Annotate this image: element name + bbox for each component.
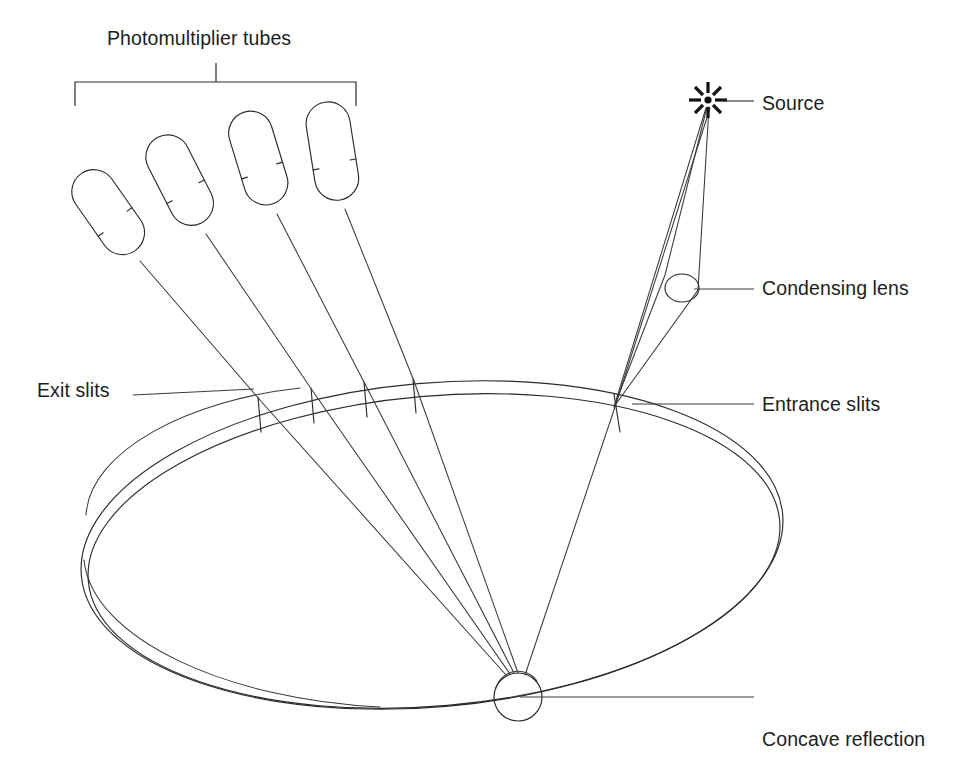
rowland-circle-band — [67, 353, 797, 737]
beam-edge-left — [614, 108, 706, 407]
label-source: Source — [762, 92, 824, 115]
rowland-circle-inner-edge — [75, 366, 793, 735]
pmt-3-notch-right — [277, 162, 283, 164]
rowland-circle-rim-highlight-lower — [84, 560, 380, 707]
photomultiplier-tube-4 — [303, 99, 362, 204]
ray-exit-slit-4-to-pmt-4 — [345, 209, 414, 381]
ray-exit-slit-1-to-pmt-1 — [140, 261, 259, 399]
pmt-2-notch-right — [199, 180, 204, 183]
label-entrance-slits: Entrance slits — [762, 393, 880, 416]
ray-entrance-to-grating — [525, 404, 616, 675]
condensing-lens — [665, 274, 699, 302]
pmt-1-notch-right — [127, 208, 132, 211]
leader-line-group — [133, 101, 754, 697]
photomultiplier-bracket — [75, 63, 356, 106]
source-starburst — [689, 82, 727, 118]
photomultiplier-tube-group — [63, 99, 362, 263]
source-ray-se — [713, 105, 721, 113]
pmt-2-body — [138, 127, 221, 233]
label-grating-line-1: Concave reflection — [762, 727, 925, 753]
source-core-dot — [704, 96, 711, 103]
photomultiplier-tube-1 — [63, 161, 153, 263]
polychromator-figure — [0, 0, 965, 768]
source-ray-nw — [695, 87, 703, 95]
rowland-circle-outer-edge — [67, 353, 797, 737]
pmt-3-body — [223, 106, 293, 211]
photomultiplier-tube-2 — [138, 127, 221, 233]
bracket-span — [75, 82, 356, 106]
ray-grating-to-exit-slit-2 — [312, 390, 510, 674]
source-ray-sw — [695, 105, 703, 113]
source-ray-ne — [713, 87, 721, 95]
light-ray-group — [140, 209, 616, 675]
label-exit-slits: Exit slits — [37, 379, 110, 402]
pmt-4-notch-left — [313, 169, 319, 170]
pmt-3-notch-left — [242, 177, 248, 179]
pmt-1-notch-left — [98, 233, 103, 236]
ray-exit-slit-2-to-pmt-2 — [206, 234, 312, 390]
leader-exit — [133, 389, 254, 395]
pmt-2-notch-left — [167, 201, 172, 204]
pmt-4-notch-right — [350, 159, 356, 160]
label-condensing-lens: Condensing lens — [762, 277, 909, 300]
source-beam-cone — [614, 107, 710, 407]
pmt-1-body — [63, 161, 153, 263]
label-diffraction-grating: Concave reflection diffraction grating — [762, 676, 925, 768]
ray-grating-to-exit-slit-1 — [259, 399, 506, 675]
photomultiplier-tube-3 — [223, 106, 293, 211]
diagram-canvas: Photomultiplier tubes Source Condensing … — [0, 0, 965, 768]
pmt-4-body — [303, 99, 362, 204]
label-photomultiplier-tubes: Photomultiplier tubes — [107, 27, 291, 50]
rowland-circle-rim-highlight — [86, 388, 300, 515]
ray-grating-to-exit-slit-4 — [414, 381, 518, 673]
exit-slit-tick-2 — [311, 388, 314, 423]
ray-grating-to-exit-slit-3 — [365, 384, 514, 673]
condensing-lens-body — [665, 274, 699, 302]
